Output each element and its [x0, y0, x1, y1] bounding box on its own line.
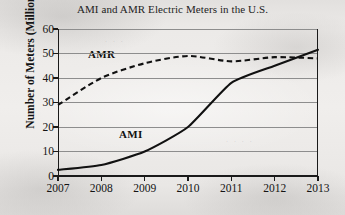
chart-plot-area: Number of Meters (Millions) 60 50 40 30 … — [0, 0, 345, 215]
y-axis-ticks — [53, 29, 58, 176]
chart-canvas — [0, 0, 345, 215]
gridlines — [58, 29, 318, 152]
